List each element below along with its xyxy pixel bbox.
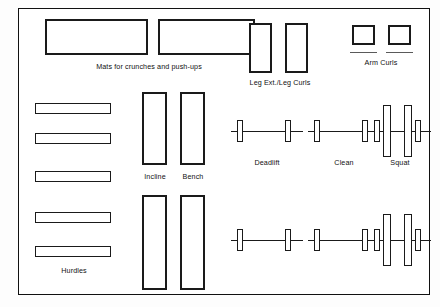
barbell-plate-left: [237, 229, 243, 251]
arm-curl-bar-1: [350, 52, 377, 53]
incline-label: Incline: [144, 173, 165, 182]
leg-machine-1: [249, 23, 272, 73]
incline-bench-upper: [142, 92, 167, 165]
mats-label: Mats for crunches and push-ups: [89, 63, 209, 72]
mat-2: [158, 19, 255, 55]
barbell-plate-left: [374, 120, 380, 142]
squat-rack-post-left: [383, 214, 391, 266]
squat-rack-post-left: [383, 105, 391, 157]
gym-floor-plan: Mats for crunches and push-ups Leg Ext./…: [0, 0, 440, 307]
flat-bench-lower: [180, 195, 205, 290]
hurdle-1: [35, 103, 111, 114]
bench-label: Bench: [183, 173, 204, 182]
squat-rack-post-right: [404, 105, 412, 157]
hurdle-2: [35, 133, 111, 144]
barbell-deadlift-lower: [231, 228, 303, 252]
barbell-plate-right: [285, 229, 291, 251]
hurdles-label: Hurdles: [61, 267, 86, 276]
hurdle-4: [35, 212, 111, 223]
barbell-plate-right: [415, 120, 421, 142]
squat-label: Squat: [390, 159, 409, 168]
arm-curl-bar-2: [386, 52, 413, 53]
arm-curls-label: Arm Curls: [365, 59, 398, 68]
clean-label: Clean: [334, 159, 353, 168]
barbell-plate-right: [285, 120, 291, 142]
barbell-plate-left: [314, 120, 320, 142]
barbell-plate-right: [362, 229, 368, 251]
flat-bench-upper: [180, 92, 205, 165]
floor-plan-border: Mats for crunches and push-ups Leg Ext./…: [18, 8, 430, 295]
mat-1: [45, 19, 148, 55]
barbell-plate-left: [374, 229, 380, 251]
squat-rack-upper: [369, 119, 431, 143]
hurdle-3: [35, 171, 111, 182]
barbell-plate-left: [237, 120, 243, 142]
barbell-deadlift-upper: [231, 119, 303, 143]
arm-curl-station-1: [352, 25, 375, 45]
leg-ext-label: Leg Ext./Leg Curls: [250, 79, 311, 88]
arm-curl-station-2: [388, 25, 411, 45]
deadlift-label: Deadlift: [254, 159, 279, 168]
incline-bench-lower: [142, 195, 167, 290]
squat-rack-lower: [369, 228, 431, 252]
leg-machine-2: [285, 23, 308, 73]
barbell-plate-right: [415, 229, 421, 251]
hurdle-5: [35, 246, 111, 257]
squat-rack-post-right: [404, 214, 412, 266]
barbell-plate-right: [362, 120, 368, 142]
barbell-plate-left: [314, 229, 320, 251]
